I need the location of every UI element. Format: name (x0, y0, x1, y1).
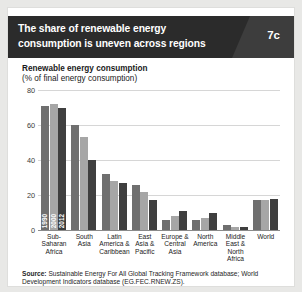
bar-1990 (132, 185, 140, 231)
x-axis-category: EastAsia &Pacific (128, 233, 162, 255)
plot-area: 199020002012 (38, 90, 280, 230)
bar-2000 (80, 137, 88, 230)
bar-1990 (192, 220, 200, 231)
bar-group (192, 90, 218, 230)
bar-2012 (149, 200, 157, 230)
bar-1990 (162, 220, 170, 231)
bar-2012 (270, 199, 278, 231)
y-axis-tick: 80 (18, 86, 35, 95)
bar-1990: 1990 (41, 106, 49, 230)
bar-year-label: 2000 (50, 214, 58, 228)
bar-1990 (253, 200, 261, 230)
bar-1990 (71, 125, 79, 230)
bar-year-label: 2012 (58, 214, 66, 228)
chart-subtitle: (% of final energy consumption) (22, 74, 137, 84)
header-wedge (232, 16, 294, 58)
bar-2000 (140, 192, 148, 231)
x-axis-category: Europe &CentralAsia (158, 233, 192, 255)
chart-title: Renewable energy consumption (22, 64, 148, 74)
bar-1990 (102, 174, 110, 230)
bar-2000 (201, 218, 209, 230)
y-axis-tick: 20 (18, 191, 35, 200)
bar-group (132, 90, 158, 230)
figure-header: The share of renewable energy consumptio… (8, 16, 294, 58)
bar-2012 (209, 213, 217, 231)
bar-2012 (119, 183, 127, 230)
figure-title: The share of renewable energy consumptio… (18, 21, 228, 51)
source-text: Sustainable Energy For All Global Tracki… (22, 270, 258, 285)
bar-group (253, 90, 279, 230)
bar-2000 (231, 227, 239, 231)
source-label: Source: (22, 270, 47, 277)
bar-2000 (110, 181, 118, 230)
bar-2000 (171, 216, 179, 230)
bar-group (102, 90, 128, 230)
x-axis-category: NorthAmerica (188, 233, 222, 248)
x-axis-category: MiddleEast &NorthAfrica (219, 233, 253, 263)
x-axis-category: LatinAmerica &Caribbean (98, 233, 132, 255)
y-axis-tick: 60 (18, 121, 35, 130)
y-axis-tick: 0 (18, 226, 35, 235)
bar-2012: 2012 (58, 108, 66, 231)
figure-number-badge: 7c (267, 29, 280, 41)
x-axis-category: Sub-SaharanAfrica (37, 233, 71, 255)
source-note: Source: Sustainable Energy For All Globa… (22, 270, 284, 287)
y-axis-tick: 40 (18, 156, 35, 165)
bar-2000 (261, 200, 269, 230)
figure-panel: The share of renewable energy consumptio… (8, 8, 294, 286)
bar-1990 (223, 225, 231, 230)
bar-year-label: 1990 (41, 214, 49, 228)
x-axis-category: SouthAsia (67, 233, 101, 248)
x-axis-category: World (249, 233, 283, 240)
gridline (38, 230, 280, 231)
bar-group (162, 90, 188, 230)
bar-2000: 2000 (50, 104, 58, 230)
x-axis-category-labels: Sub-SaharanAfricaSouthAsiaLatinAmerica &… (38, 233, 288, 263)
bar-group (223, 90, 249, 230)
bar-group: 199020002012 (41, 90, 67, 230)
bar-2012 (88, 160, 96, 230)
bar-2012 (179, 211, 187, 230)
bar-2012 (240, 227, 248, 231)
bar-group (71, 90, 97, 230)
